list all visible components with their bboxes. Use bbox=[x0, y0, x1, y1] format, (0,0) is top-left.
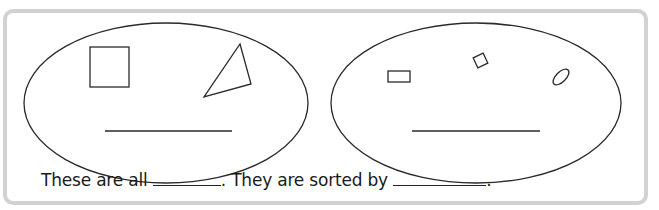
triangle-shape bbox=[204, 44, 251, 97]
sentence-part-2: . They are sorted by bbox=[221, 170, 388, 190]
question-sentence: These are all . They are sorted by . bbox=[41, 169, 491, 190]
category-blank[interactable] bbox=[153, 169, 221, 186]
rectangle-shape bbox=[388, 71, 410, 82]
group-2-oval bbox=[331, 23, 621, 183]
small-square-shape bbox=[473, 53, 488, 68]
sort-rule-blank[interactable] bbox=[393, 169, 486, 186]
sentence-part-1: These are all bbox=[41, 170, 148, 190]
group-1-oval bbox=[24, 23, 308, 183]
square-shape bbox=[90, 47, 129, 87]
sentence-part-3: . bbox=[486, 170, 491, 190]
small-oval-shape bbox=[550, 66, 571, 87]
